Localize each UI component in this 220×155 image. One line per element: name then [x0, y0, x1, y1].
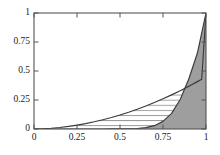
figure-container: 1 0.75 0.5 0.25 0 0 0.25 0.5 0.75 1: [0, 0, 220, 155]
x-tick-label-1: 1: [204, 133, 209, 143]
x-tick-label-075: 0.75: [155, 133, 172, 143]
y-tick-label-1: 1: [25, 8, 30, 18]
y-tick-label-0: 0: [25, 124, 30, 134]
x-tick-label-05: 0.5: [114, 133, 126, 143]
x-tick-label-025: 0.25: [69, 133, 86, 143]
x-tick-label-0: 0: [32, 133, 37, 143]
y-tick-label-05: 0.5: [18, 66, 30, 76]
y-tick-label-075: 0.75: [13, 37, 30, 47]
y-tick-label-025: 0.25: [13, 95, 30, 105]
